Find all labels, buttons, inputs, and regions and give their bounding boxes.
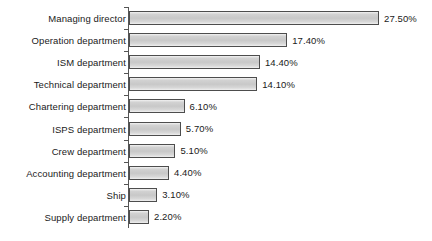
- bar-row: Ship3.10%: [0, 184, 432, 206]
- axis-tick: [124, 51, 128, 52]
- bar-container: 17.40%: [129, 33, 325, 47]
- bar-value-label: 14.40%: [265, 57, 298, 68]
- axis-tick: [124, 73, 128, 74]
- category-label: Chartering department: [29, 101, 126, 112]
- bar: [129, 122, 181, 136]
- axis-tick: [124, 29, 128, 30]
- horizontal-bar-chart: Managing director27.50%Operation departm…: [0, 0, 432, 241]
- category-label: Technical department: [34, 79, 126, 90]
- bar: [129, 144, 175, 158]
- category-label: Supply department: [45, 211, 126, 222]
- bar-container: 14.40%: [129, 55, 298, 69]
- category-label: Operation department: [32, 35, 126, 46]
- bar-row: Chartering department6.10%: [0, 95, 432, 117]
- bar-container: 14.10%: [129, 77, 295, 91]
- bar-container: 6.10%: [129, 99, 217, 113]
- bar-value-label: 14.10%: [262, 79, 295, 90]
- bar: [129, 166, 169, 180]
- plot-area: Managing director27.50%Operation departm…: [0, 0, 432, 241]
- axis-tick: [124, 206, 128, 207]
- bar-value-label: 3.10%: [162, 189, 189, 200]
- bar-value-label: 5.70%: [186, 123, 213, 134]
- bar: [129, 11, 379, 25]
- bar-container: 2.20%: [129, 210, 181, 224]
- category-label: Accounting department: [26, 167, 126, 178]
- category-label: ISM department: [57, 57, 126, 68]
- bar: [129, 77, 257, 91]
- bar-row: Technical department14.10%: [0, 73, 432, 95]
- bar-value-label: 6.10%: [190, 101, 217, 112]
- bar-value-label: 17.40%: [292, 35, 325, 46]
- bar-row: Accounting department4.40%: [0, 162, 432, 184]
- bar-container: 5.70%: [129, 122, 213, 136]
- bar-container: 3.10%: [129, 188, 190, 202]
- bar-row: Crew department5.10%: [0, 140, 432, 162]
- bar-container: 5.10%: [129, 144, 208, 158]
- axis-tick: [124, 162, 128, 163]
- category-label: ISPS department: [52, 123, 126, 134]
- bar-container: 27.50%: [129, 11, 417, 25]
- bar-row: Supply department2.20%: [0, 206, 432, 228]
- bar: [129, 33, 287, 47]
- bar-row: Operation department17.40%: [0, 29, 432, 51]
- bar-value-label: 2.20%: [154, 211, 181, 222]
- bar-value-label: 5.10%: [180, 145, 207, 156]
- category-label: Ship: [107, 189, 126, 200]
- bar: [129, 188, 157, 202]
- category-label: Managing director: [48, 13, 126, 24]
- axis-tick: [124, 117, 128, 118]
- bar-value-label: 27.50%: [384, 13, 417, 24]
- bar-container: 4.40%: [129, 166, 201, 180]
- bar-row: ISPS department5.70%: [0, 117, 432, 139]
- axis-tick: [124, 7, 128, 8]
- category-label: Crew department: [52, 145, 126, 156]
- axis-tick: [124, 184, 128, 185]
- bar-row: Managing director27.50%: [0, 7, 432, 29]
- axis-tick: [124, 140, 128, 141]
- axis-tick: [124, 95, 128, 96]
- bar-value-label: 4.40%: [174, 167, 201, 178]
- bar: [129, 99, 185, 113]
- bar: [129, 210, 149, 224]
- bar: [129, 55, 260, 69]
- bar-row: ISM department14.40%: [0, 51, 432, 73]
- bar-rows: Managing director27.50%Operation departm…: [0, 7, 432, 228]
